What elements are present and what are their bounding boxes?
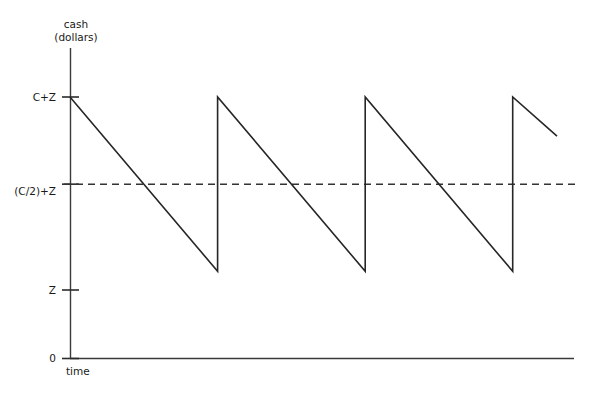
y-tick-label-half-c-plus-z: (C/2)+Z (0, 185, 56, 197)
x-axis-title: time (66, 365, 90, 378)
y-axis-title: cash (dollars) (48, 18, 104, 44)
y-tick-label-zero: 0 (0, 352, 56, 364)
chart-plot-area (0, 0, 595, 394)
y-axis-title-line1: cash (48, 18, 104, 31)
y-tick-label-c-plus-z: C+Z (0, 91, 56, 103)
y-tick-label-z: Z (0, 284, 56, 296)
cash-balance-sawtooth-line (70, 97, 557, 271)
chart-figure: cash (dollars) time C+Z (C/2)+Z Z 0 (0, 0, 595, 394)
y-axis-title-line2: (dollars) (48, 31, 104, 44)
